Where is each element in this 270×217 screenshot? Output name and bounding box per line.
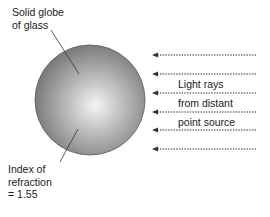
ray-3 [152, 91, 256, 96]
rays-label-line3: point source [178, 116, 235, 129]
ray-1 [152, 53, 256, 58]
ray-6 [152, 147, 256, 152]
rays-label-line1: Light rays [178, 78, 224, 91]
globe-label-line1: Solid globe [12, 6, 64, 19]
globe-label-line2: of glass [12, 19, 64, 32]
glass-globe [35, 45, 145, 155]
index-label-line1: Index of [8, 163, 52, 176]
ray-4 [152, 110, 256, 115]
index-label-line3: = 1.55 [8, 188, 52, 201]
rays-label-line2: from distant [178, 97, 233, 110]
globe-label: Solid globe of glass [12, 6, 64, 31]
ray-2 [152, 72, 256, 77]
index-label: Index of refraction = 1.55 [8, 163, 52, 201]
index-label-line2: refraction [8, 176, 52, 189]
